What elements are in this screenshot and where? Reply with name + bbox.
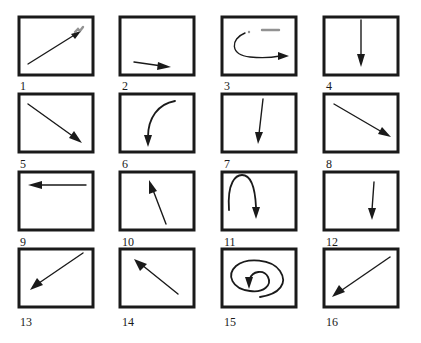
panel-label: 14 — [122, 316, 134, 328]
arrow-right-icon — [120, 17, 194, 75]
arrow-down-icon — [324, 17, 398, 75]
panel-label: 11 — [224, 236, 236, 248]
arrow-down-right-icon — [324, 94, 398, 152]
arrow-up-icon — [120, 172, 194, 230]
panel-12 — [324, 172, 398, 230]
arrow-down-left-icon — [19, 249, 93, 307]
panel-8 — [324, 94, 398, 152]
spiral-arrow-icon — [222, 249, 296, 307]
arch-arrow-down-icon — [222, 172, 296, 230]
panel-label: 8 — [326, 158, 332, 170]
panel-16 — [324, 249, 398, 307]
panel-13 — [19, 249, 93, 307]
panel-11 — [222, 172, 296, 230]
panel-label: 12 — [326, 236, 338, 248]
curved-arrow-down-icon — [120, 94, 194, 152]
panel-2 — [120, 17, 194, 75]
panel-7 — [222, 94, 296, 152]
panel-label: 3 — [224, 80, 230, 92]
panel-5 — [19, 94, 93, 152]
panel-label: 10 — [122, 236, 134, 248]
arrow-up-left-icon — [120, 249, 194, 307]
arrow-down-icon — [222, 94, 296, 152]
arrow-left-icon — [19, 172, 93, 230]
panel-14 — [120, 249, 194, 307]
panel-6 — [120, 94, 194, 152]
arrow-down-left-icon — [324, 249, 398, 307]
arrow-down-icon — [324, 172, 398, 230]
panel-3 — [222, 17, 296, 75]
panel-label: 2 — [122, 80, 128, 92]
panel-label: 16 — [326, 316, 338, 328]
arrow-down-right-icon — [19, 94, 93, 152]
panel-label: 6 — [122, 158, 128, 170]
panel-label: 9 — [20, 236, 26, 248]
panel-label: 1 — [20, 80, 26, 92]
panel-10 — [120, 172, 194, 230]
panel-label: 5 — [20, 158, 26, 170]
panel-label: 13 — [20, 316, 32, 328]
arrow-up-right-icon — [19, 17, 93, 75]
panel-1 — [19, 17, 93, 75]
panel-label: 4 — [326, 80, 332, 92]
panel-15 — [222, 249, 296, 307]
panel-9 — [19, 172, 93, 230]
panel-label: 15 — [224, 316, 236, 328]
curved-arrow-right-icon — [222, 17, 296, 75]
panel-4 — [324, 17, 398, 75]
panel-label: 7 — [224, 158, 230, 170]
